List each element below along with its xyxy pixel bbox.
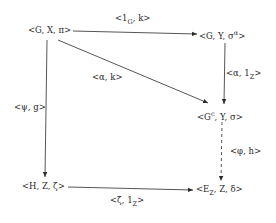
label-post: > <box>137 195 144 205</box>
label-text: <φ, h> <box>230 146 261 156</box>
node-label: <G, X, π> <box>28 25 71 35</box>
arrow-right-lower-dashed <box>221 122 222 181</box>
label-pre: <ζ̄, 1 <box>110 195 133 205</box>
label-text: <α, k> <box>92 72 123 82</box>
label-top-arrow: <1G, k> <box>115 13 150 27</box>
node-label-post: > <box>238 31 245 41</box>
label-text: <ψ, g> <box>14 102 46 112</box>
label-post: > <box>254 68 261 78</box>
node-label-pre: <G <box>197 112 211 122</box>
arrow-diagonal <box>58 40 208 103</box>
node-h-z-zeta: <H, Z, ζ> <box>22 181 65 191</box>
node-label-post: , Z, δ> <box>214 184 243 194</box>
node-label: <H, Z, ζ> <box>22 181 65 191</box>
node-label-post: , Y, σ> <box>215 112 243 122</box>
label-diagonal-arrow: <α, k> <box>92 72 123 82</box>
node-gc-y-sigma: <Gc, Y, σ> <box>197 109 243 122</box>
label-right-lower-arrow: <φ, h> <box>230 146 261 156</box>
label-pre: <1 <box>115 13 128 23</box>
arrow-top <box>73 31 197 34</box>
label-left-arrow: <ψ, g> <box>14 102 46 112</box>
node-label-pre: <G, Y, σ <box>199 31 234 41</box>
arrow-right-upper <box>224 43 225 104</box>
label-post: , k> <box>133 13 151 23</box>
label-bottom-arrow: <ζ̄, 1Z> <box>110 195 144 209</box>
label-pre: <α, 1 <box>226 68 250 78</box>
arrow-bottom <box>68 187 193 190</box>
node-g-y-sigma-alpha: <G, Y, σα> <box>199 28 245 41</box>
label-right-upper-arrow: <α, 1Z> <box>226 68 261 82</box>
node-g-x-pi: <G, X, π> <box>28 25 71 35</box>
node-ez-z-delta: <EZ, Z, δ> <box>196 184 243 198</box>
node-label-pre: <E <box>196 184 209 194</box>
